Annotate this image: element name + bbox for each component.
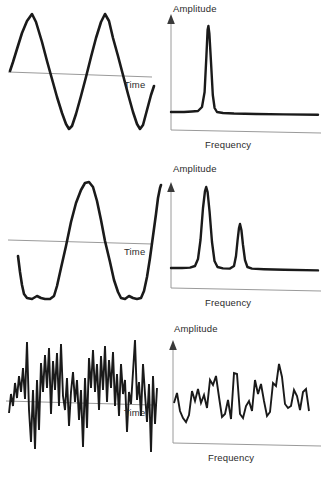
spectrum-distorted-sine-trace bbox=[171, 187, 318, 270]
frequency-axis-label: Frequency bbox=[205, 140, 251, 150]
amplitude-axis-arrow-icon bbox=[167, 14, 175, 24]
time-axis-label: Time bbox=[124, 408, 145, 418]
amplitude-axis-label: Amplitude bbox=[173, 4, 217, 14]
amplitude-axis-arrow-icon bbox=[167, 182, 175, 192]
time-waveform-random-noise-chart bbox=[0, 320, 170, 479]
frequency-domain-panel-pure-sine: Amplitude Frequency bbox=[160, 0, 324, 159]
time-waveform-random-noise-trace bbox=[9, 340, 157, 452]
spectrum-pure-sine-chart bbox=[160, 0, 324, 159]
spectrum-pure-sine-trace bbox=[171, 26, 318, 115]
spectrum-distorted-sine-chart bbox=[160, 160, 324, 319]
frequency-axis-line bbox=[171, 288, 321, 291]
figure-row-pure-sine: Time Amplitude Frequency bbox=[0, 0, 324, 159]
spectrum-random-noise-trace bbox=[174, 364, 309, 422]
amplitude-axis-label: Amplitude bbox=[173, 164, 217, 174]
frequency-axis-label: Frequency bbox=[205, 298, 251, 308]
frequency-domain-panel-distorted-sine: Amplitude Frequency bbox=[160, 160, 324, 319]
time-domain-panel-distorted-sine: Time bbox=[0, 160, 170, 319]
figure-row-random-noise: Time Amplitude Frequency bbox=[0, 320, 324, 479]
amplitude-axis-label: Amplitude bbox=[174, 324, 218, 334]
amplitude-axis-arrow-icon bbox=[169, 340, 177, 350]
time-axis-label: Time bbox=[124, 80, 145, 90]
time-domain-panel-pure-sine: Time bbox=[0, 0, 170, 159]
time-waveform-pure-sine-trace bbox=[10, 14, 154, 129]
time-axis-line bbox=[8, 72, 152, 77]
frequency-axis-label: Frequency bbox=[208, 453, 254, 463]
time-waveform-distorted-sine-chart bbox=[0, 160, 170, 319]
signal-domain-figure: Time Amplitude Frequency Time bbox=[0, 0, 324, 479]
frequency-axis-line bbox=[171, 130, 321, 133]
figure-row-distorted-sine: Time Amplitude Frequency bbox=[0, 160, 324, 319]
frequency-axis-line bbox=[173, 443, 321, 446]
time-domain-panel-random-noise: Time bbox=[0, 320, 170, 479]
time-axis-line bbox=[8, 240, 152, 244]
time-axis-label: Time bbox=[124, 247, 145, 257]
frequency-domain-panel-random-noise: Amplitude Frequency bbox=[160, 320, 324, 479]
